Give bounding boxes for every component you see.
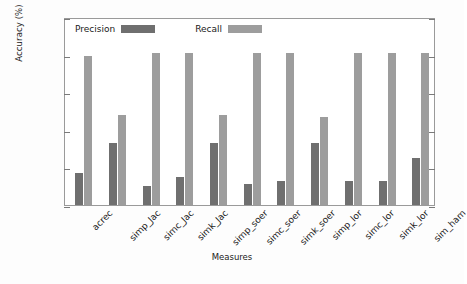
x-tick-label-acrec: acrec [90, 208, 114, 232]
bar-recall-simk_soer [286, 53, 294, 205]
bar-recall-simp_Jac [118, 115, 126, 205]
bar-recall-acrec [84, 56, 92, 205]
x-tick-label-simp_soer: simp_soer [231, 208, 270, 247]
bar-precision-acrec [75, 173, 83, 205]
bar-recall-simp_soer [219, 115, 227, 205]
x-tick-label-simk_lor: simk_lor [397, 208, 431, 242]
bar-precision-simk_Jac [176, 177, 184, 205]
legend-label-precision: Precision [75, 24, 115, 34]
bar-precision-simk_lor [379, 181, 387, 205]
bar-group [379, 19, 397, 205]
bar-group [244, 19, 262, 205]
bar-precision-simc_Jac [143, 186, 151, 205]
bar-precision-simp_lor [311, 143, 319, 205]
y-tick-0.8 [64, 57, 70, 58]
bar-recall-sim_ham [421, 53, 429, 205]
x-tick-label-simp_Jac: simp_Jac [128, 208, 163, 243]
legend-swatch-precision [121, 25, 155, 33]
bar-group [75, 19, 93, 205]
x-tick-label-simk_Jac: simk_Jac [195, 208, 230, 243]
bar-group [109, 19, 127, 205]
chart-legend: Precision Recall [75, 24, 262, 34]
bar-group [412, 19, 430, 205]
bar-recall-simc_Jac [152, 53, 160, 205]
y-tick-1 [64, 19, 70, 20]
bar-recall-simk_lor [388, 53, 396, 205]
bar-group [345, 19, 363, 205]
bar-precision-simc_soer [244, 184, 252, 205]
bar-group [210, 19, 228, 205]
legend-item-precision: Precision [75, 24, 155, 34]
bar-recall-simk_Jac [185, 53, 193, 205]
x-tick-label-simc_Jac: simc_Jac [161, 208, 195, 242]
y-tick-0.6 [64, 94, 70, 95]
bar-precision-simk_soer [277, 181, 285, 205]
bar-precision-sim_ham [412, 158, 420, 205]
bar-precision-simp_Jac [109, 143, 117, 205]
plot-area: Precision Recall [64, 18, 435, 206]
x-tick-label-simc_lor: simc_lor [363, 208, 396, 241]
x-tick-label-sim_ham: sim_ham [432, 208, 467, 244]
x-tick-label-simc_soer: simc_soer [264, 208, 303, 247]
x-axis-title: Measures [0, 252, 464, 262]
bar-precision-simp_soer [210, 143, 218, 205]
x-tick-label-simk_soer: simk_soer [298, 208, 337, 247]
legend-label-recall: Recall [195, 24, 222, 34]
plot-inner: Precision Recall [65, 19, 434, 205]
bar-group [176, 19, 194, 205]
bar-group [277, 19, 295, 205]
bar-group [143, 19, 161, 205]
bar-precision-simc_lor [345, 181, 353, 205]
y-tick-0.4 [64, 132, 70, 133]
bar-recall-simp_lor [320, 117, 328, 205]
bar-group [311, 19, 329, 205]
legend-item-recall: Recall [195, 24, 262, 34]
bar-recall-simc_soer [253, 53, 261, 205]
bar-recall-simc_lor [354, 53, 362, 205]
legend-swatch-recall [228, 25, 262, 33]
y-axis-title: Accuracy (%) [14, 0, 24, 78]
y-tick-0.2 [64, 169, 70, 170]
